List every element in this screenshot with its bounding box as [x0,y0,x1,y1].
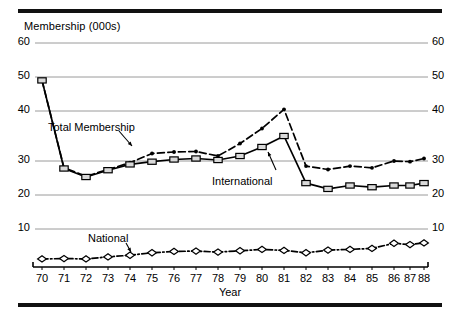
marker-total-membership [422,157,426,161]
y-tick-label-right-30: 30 [432,153,454,165]
marker-international [60,166,68,171]
marker-total-membership [348,164,352,168]
marker-national [236,248,245,254]
annotation-international: International [212,175,273,187]
marker-national [82,256,91,262]
marker-total-membership [326,168,330,172]
y-tick-label-left-40: 40 [8,103,30,115]
marker-international [82,174,90,179]
marker-international [406,183,414,188]
marker-international [420,181,428,186]
marker-national [60,255,69,261]
series-line-national [42,243,424,259]
marker-national [126,252,135,258]
chart-figure: Membership (000s) Year 10102020303040405… [0,0,460,317]
marker-national [390,240,399,246]
marker-total-membership [150,152,154,156]
marker-international [126,162,134,167]
annotation-total-membership: Total Membership [48,121,135,133]
x-tick-label-78: 78 [207,272,229,284]
marker-international [192,156,200,161]
marker-international [170,157,178,162]
marker-international [302,181,310,186]
x-tick-label-71: 71 [53,272,75,284]
marker-total-membership [392,159,396,163]
y-tick-label-right-40: 40 [432,103,454,115]
x-tick-label-81: 81 [273,272,295,284]
marker-national [280,247,289,253]
marker-national [38,256,47,262]
marker-total-membership [238,142,242,146]
marker-national [420,240,429,246]
y-tick-label-right-10: 10 [432,221,454,233]
marker-total-membership [172,150,176,154]
marker-total-membership [260,127,264,131]
x-tick-label-76: 76 [163,272,185,284]
marker-international [38,78,46,83]
marker-national [192,248,201,254]
marker-national [302,250,311,256]
marker-national [324,247,333,253]
y-tick-label-left-10: 10 [8,221,30,233]
x-tick-label-70: 70 [31,272,53,284]
y-tick-label-left-60: 60 [8,35,30,47]
marker-total-membership [408,160,412,164]
marker-total-membership [304,164,308,168]
x-tick-label-80: 80 [251,272,273,284]
y-tick-label-left-30: 30 [8,153,30,165]
marker-international [214,157,222,162]
marker-international [368,185,376,190]
marker-national [148,250,157,256]
marker-total-membership [282,107,286,111]
y-tick-label-left-50: 50 [8,69,30,81]
marker-total-membership [370,166,374,170]
marker-international [258,144,266,149]
x-tick-label-83: 83 [317,272,339,284]
marker-international [346,183,354,188]
marker-international [324,186,332,191]
y-tick-label-right-60: 60 [432,35,454,47]
x-tick-label-77: 77 [185,272,207,284]
marker-international [236,153,244,158]
marker-national [170,248,179,254]
series-line-international [42,80,424,188]
plot-area [0,0,460,317]
x-tick-label-82: 82 [295,272,317,284]
y-tick-label-right-20: 20 [432,187,454,199]
marker-national [406,241,415,247]
marker-international [148,159,156,164]
marker-national [346,246,355,252]
marker-international [104,168,112,173]
x-tick-label-74: 74 [119,272,141,284]
x-tick-label-73: 73 [97,272,119,284]
marker-national [368,245,377,251]
x-tick-label-75: 75 [141,272,163,284]
marker-international [390,183,398,188]
y-tick-label-right-50: 50 [432,69,454,81]
marker-total-membership [194,150,198,154]
marker-national [104,254,113,260]
y-tick-label-left-20: 20 [8,187,30,199]
annotation-national: National [88,232,128,244]
x-tick-label-85: 85 [361,272,383,284]
x-tick-label-79: 79 [229,272,251,284]
marker-international [280,133,288,138]
marker-national [258,246,267,252]
x-tick-label-84: 84 [339,272,361,284]
x-tick-label-88: 88 [413,272,435,284]
x-tick-label-72: 72 [75,272,97,284]
marker-national [214,249,223,255]
